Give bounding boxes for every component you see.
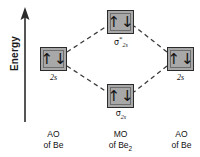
- caption-ao-left: AO of Be: [26, 129, 81, 152]
- spin-up-arrow-icon: ↑: [107, 15, 120, 30]
- energy-axis: Energy: [0, 0, 45, 130]
- dash-right-to-bonding: [134, 66, 167, 92]
- orbital-box-ao-left-2s[interactable]: ↑ ↓: [40, 47, 67, 71]
- electron-pair-ao-right: ↑ ↓: [167, 52, 193, 67]
- electron-pair-sigma-star-2s: ↑ ↓: [107, 15, 133, 30]
- mo-diagram-figure: Energy ↑ ↓ σ*2s ↑ ↓ 2s ↑ ↓ 2s ↑ ↓: [0, 0, 200, 157]
- caption-line-2: of Be2: [93, 140, 148, 153]
- spin-down-arrow-icon: ↓: [121, 15, 134, 30]
- spin-down-arrow-icon: ↓: [54, 52, 67, 67]
- caption-subscript: 2: [129, 144, 133, 151]
- caption-line-1: AO: [26, 129, 81, 140]
- orbital-label-sigma-2s: σ2s: [103, 109, 139, 120]
- spin-down-arrow-icon: ↓: [121, 89, 134, 104]
- caption-text: of Be: [109, 140, 129, 150]
- spin-up-arrow-icon: ↑: [167, 52, 180, 67]
- orbital-box-sigma-2s[interactable]: ↑ ↓: [107, 84, 134, 108]
- orbital-subscript: 2s: [123, 42, 128, 48]
- caption-mo-center: MO of Be2: [93, 129, 148, 152]
- electron-pair-ao-left: ↑ ↓: [40, 52, 66, 67]
- caption-ao-right: AO of Be: [154, 129, 200, 152]
- orbital-box-ao-right-2s[interactable]: ↑ ↓: [167, 47, 194, 71]
- caption-text: of Be: [44, 140, 64, 150]
- orbital-label-ao-right-2s: 2s: [167, 73, 194, 82]
- orbital-label-sigma-star-2s: σ*2s: [103, 35, 139, 48]
- caption-line-1: AO: [154, 129, 200, 140]
- orbital-label-ao-left-2s: 2s: [40, 73, 67, 82]
- caption-line-1: MO: [93, 129, 148, 140]
- spin-up-arrow-icon: ↑: [107, 89, 120, 104]
- caption-line-2: of Be: [154, 140, 200, 153]
- energy-axis-label: Energy: [9, 24, 20, 84]
- dash-left-to-antibonding: [67, 26, 107, 52]
- orbital-box-sigma-star-2s[interactable]: ↑ ↓: [107, 10, 134, 34]
- orbital-subscript: 2s: [121, 114, 126, 120]
- spin-down-arrow-icon: ↓: [181, 52, 194, 67]
- caption-line-2: of Be: [26, 140, 81, 153]
- dash-left-to-bonding: [67, 66, 107, 92]
- electron-pair-sigma-2s: ↑ ↓: [107, 89, 133, 104]
- spin-up-arrow-icon: ↑: [40, 52, 53, 67]
- caption-text: of Be: [172, 140, 192, 150]
